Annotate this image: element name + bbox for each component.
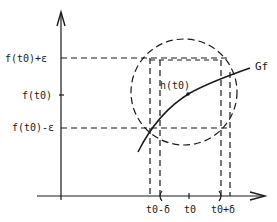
graph-curve [138,68,250,152]
label-curve-gf: Gf [255,60,268,73]
label-t0-minus-delta: t0-δ [146,204,170,215]
point-h-t0 [186,92,190,96]
label-t0: t0 [184,204,196,215]
label-t0-plus-delta: t0+δ [211,204,235,215]
label-f-t0-plus-eps: f(t0)+ε [5,53,47,64]
label-h-t0: h(t0) [160,80,190,91]
epsilon-delta-diagram: f(t0)+ε f(t0) f(t0)-ε t0-δ t0 t0+δ Gf h(… [0,0,277,222]
label-f-t0-minus-eps: f(t0)-ε [12,122,54,133]
label-f-t0: f(t0) [22,90,52,101]
